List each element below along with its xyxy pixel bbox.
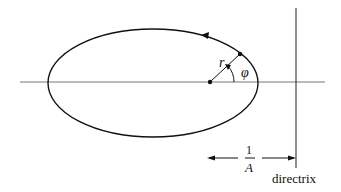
angle-label: φ [241,66,249,80]
ellipse-diagram [0,0,341,192]
distance-denominator: A [245,161,253,174]
radius-label: r [219,56,224,70]
distance-numerator: 1 [246,144,252,156]
radius-vector [210,54,240,82]
ellipse-orbit [48,29,258,137]
orbit-direction-arrow-icon [201,32,209,39]
distance-arrow-left-icon [207,156,215,161]
distance-arrow-right-icon [288,156,296,161]
directrix-label: directrix [272,172,316,185]
